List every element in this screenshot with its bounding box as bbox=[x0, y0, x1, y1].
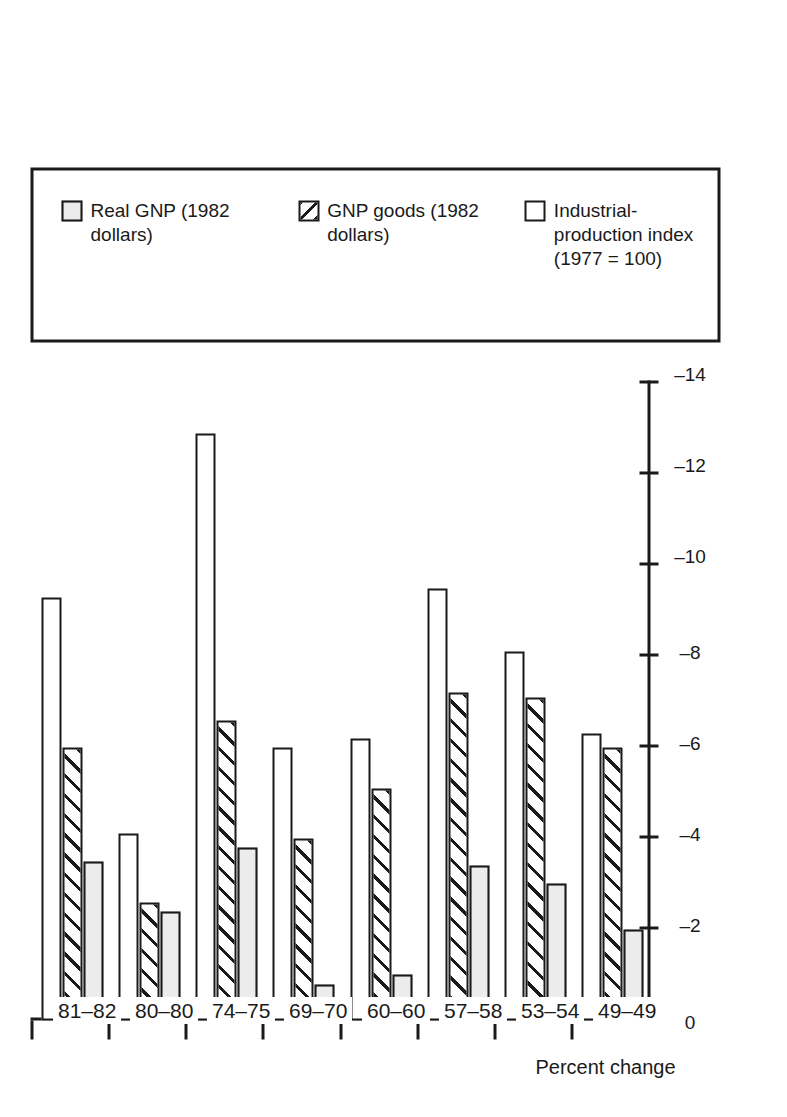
bar-gnp-goods bbox=[448, 692, 468, 1020]
bar-group: 60–60 bbox=[350, 383, 413, 1020]
bar-group: 69–70 bbox=[272, 383, 335, 1020]
bar-ind-prod bbox=[272, 747, 292, 1020]
value-axis-title: Percent change bbox=[535, 1055, 675, 1078]
bar-gnp-goods bbox=[371, 788, 391, 1020]
bar-group: 57–58 bbox=[427, 383, 490, 1020]
bar-gnp-goods bbox=[62, 747, 82, 1020]
chart-legend: Real GNP (1982 dollars)GNP goods (1982 d… bbox=[30, 167, 720, 342]
bar-group: 49–49 bbox=[581, 383, 644, 1020]
category-label: 60–60 bbox=[361, 997, 429, 1024]
legend-swatch-ind-prod bbox=[524, 200, 545, 221]
chart-figure: 0–2–4–6–8–10–12–14 49–4953–5457–5860–606… bbox=[0, 0, 787, 1117]
bar-ind-prod bbox=[350, 738, 370, 1020]
category-tick bbox=[30, 1020, 33, 1039]
bar-ind-prod bbox=[427, 588, 447, 1020]
category-axis-line bbox=[647, 380, 650, 1020]
value-tick-label: –2 bbox=[679, 916, 700, 935]
bar-gnp-goods bbox=[525, 697, 545, 1020]
bar-gnp-goods bbox=[602, 747, 622, 1020]
bar-group: 80–80 bbox=[118, 383, 181, 1020]
bar-ind-prod bbox=[41, 597, 61, 1020]
value-tick-label: –14 bbox=[674, 365, 706, 384]
bar-ind-prod bbox=[118, 833, 138, 1020]
legend-label: Real GNP (1982 dollars) bbox=[90, 198, 256, 246]
category-label: 53–54 bbox=[515, 997, 583, 1024]
bar-ind-prod bbox=[581, 733, 601, 1020]
bar-gnp-goods bbox=[216, 720, 236, 1020]
legend-swatch-real-gnp bbox=[61, 200, 82, 221]
value-tick-label: –8 bbox=[679, 643, 700, 662]
bar-ind-prod bbox=[504, 651, 524, 1020]
category-label: 80–80 bbox=[130, 997, 198, 1024]
value-tick-label: –12 bbox=[674, 456, 706, 475]
legend-item-ind-prod: Industrial-production index (1977 = 100) bbox=[524, 198, 723, 270]
bar-gnp-goods bbox=[293, 838, 313, 1020]
value-tick-label: –4 bbox=[679, 825, 700, 844]
bar-group: 81–82 bbox=[41, 383, 104, 1020]
category-label: 49–49 bbox=[592, 997, 660, 1024]
bar-real-gnp bbox=[237, 847, 257, 1020]
category-label: 74–75 bbox=[207, 997, 275, 1024]
bar-group: 74–75 bbox=[195, 383, 258, 1020]
bar-group: 53–54 bbox=[504, 383, 567, 1020]
bar-ind-prod bbox=[195, 433, 215, 1020]
category-label: 69–70 bbox=[284, 997, 352, 1024]
value-tick-label: –6 bbox=[679, 734, 700, 753]
legend-item-real-gnp: Real GNP (1982 dollars) bbox=[61, 198, 256, 246]
rotated-figure-stage: 0–2–4–6–8–10–12–14 49–4953–5457–5860–606… bbox=[0, 0, 787, 1117]
legend-swatch-gnp-goods bbox=[298, 200, 319, 221]
plot-area: 0–2–4–6–8–10–12–14 49–4953–5457–5860–606… bbox=[30, 383, 647, 1020]
value-tick-label: 0 bbox=[684, 1012, 695, 1031]
value-tick-label: –10 bbox=[674, 547, 706, 566]
legend-item-gnp-goods: GNP goods (1982 dollars) bbox=[298, 198, 487, 246]
legend-label: Industrial-production index (1977 = 100) bbox=[553, 198, 723, 270]
category-label: 81–82 bbox=[53, 997, 121, 1024]
legend-label: GNP goods (1982 dollars) bbox=[327, 198, 487, 246]
category-label: 57–58 bbox=[438, 997, 506, 1024]
